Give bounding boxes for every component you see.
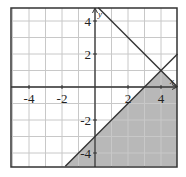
y-axis-label: y (97, 9, 102, 19)
y-tick-label: 2 (85, 47, 92, 62)
inequality-graph: -4-22442-2-4 y x (0, 0, 186, 177)
y-tick-label: 4 (85, 14, 92, 29)
x-tick-label: -4 (24, 91, 35, 106)
x-tick-label: 2 (125, 91, 132, 106)
y-tick-label: -2 (80, 113, 91, 128)
x-axis-label: x (169, 76, 174, 86)
y-tick-label: -4 (80, 146, 91, 161)
boundary-1-line (98, 8, 177, 87)
x-tick-label: -2 (57, 91, 68, 106)
x-tick-label: 4 (158, 91, 165, 106)
